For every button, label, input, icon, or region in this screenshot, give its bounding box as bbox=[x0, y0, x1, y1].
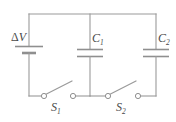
battery-label: ΔV bbox=[11, 31, 26, 43]
switch-1-label: S1 bbox=[51, 101, 61, 116]
circuit-diagram: ΔV C1 C2 S1 S2 bbox=[0, 0, 176, 122]
switch-2-subscript: 2 bbox=[122, 107, 126, 116]
switch-2-left-terminal[interactable] bbox=[105, 93, 110, 98]
capacitor-2-symbol: C bbox=[158, 31, 166, 45]
switch-1-arm[interactable] bbox=[45, 81, 73, 95]
capacitor-1-subscript: 1 bbox=[100, 38, 104, 47]
capacitor-1-symbol: C bbox=[92, 31, 100, 45]
delta-glyph: Δ bbox=[11, 30, 19, 44]
circuit-schematic-svg bbox=[0, 0, 176, 122]
switch-1-right-terminal[interactable] bbox=[70, 93, 75, 98]
capacitor-2-label: C2 bbox=[158, 32, 170, 47]
switch-2-label: S2 bbox=[116, 101, 126, 116]
switch-2-arm[interactable] bbox=[109, 81, 137, 95]
switch-1-subscript: 1 bbox=[57, 107, 61, 116]
capacitor-2-subscript: 2 bbox=[166, 38, 170, 47]
battery-voltage-symbol: V bbox=[19, 30, 26, 44]
capacitor-1-label: C1 bbox=[92, 32, 104, 47]
switch-1-left-terminal[interactable] bbox=[41, 93, 46, 98]
switch-2-right-terminal[interactable] bbox=[135, 93, 140, 98]
